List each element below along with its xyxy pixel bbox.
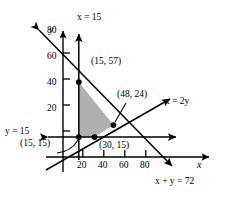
shaded-feasible-region — [79, 82, 114, 137]
leader-line-15-15 — [57, 140, 78, 153]
constraint-label-y-15: y = 15 — [5, 127, 29, 137]
constraint-label-x-plus-y-72: x + y = 72 — [155, 177, 194, 187]
constraint-line-x-equals-2y — [46, 99, 170, 170]
vertex-point-15-57 — [76, 79, 82, 85]
plot-canvas — [0, 0, 229, 199]
point-label-15-57: (15, 57) — [91, 57, 121, 67]
vertex-point-30-15 — [92, 134, 98, 140]
x-tick-label-40: 40 — [98, 161, 108, 171]
x-axis-label: x — [197, 160, 201, 170]
vertex-point-48-24 — [111, 122, 117, 128]
y-tick-label-20: 20 — [47, 104, 57, 114]
constraint-label-x-15: x = 15 — [77, 13, 101, 23]
x-tick-label-20: 20 — [77, 161, 87, 171]
leader-line-48-24 — [115, 103, 126, 122]
point-label-48-24: (48, 24) — [117, 90, 147, 100]
graph-figure: y x 80 60 40 20 20 40 60 80 x = 15 y = 1… — [0, 0, 229, 199]
y-tick-label-80: 80 — [47, 26, 57, 36]
y-tick-label-40: 40 — [47, 78, 57, 88]
point-label-15-15: (15, 15) — [20, 139, 50, 149]
constraint-label-x-2y: x = 2y — [165, 97, 189, 107]
vertex-point-15-15 — [76, 134, 82, 140]
y-tick-label-60: 60 — [47, 52, 57, 62]
point-label-30-15: (30, 15) — [99, 141, 129, 151]
x-tick-label-60: 60 — [119, 161, 129, 171]
x-tick-label-80: 80 — [140, 161, 150, 171]
